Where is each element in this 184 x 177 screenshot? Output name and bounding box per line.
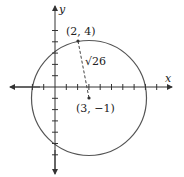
x-axis-label: x: [165, 72, 172, 85]
coordinate-diagram: y x (2, 4) √26 (3, −1): [0, 0, 184, 177]
point-2-4: [76, 39, 79, 42]
point-label: (2, 4): [66, 25, 96, 38]
y-axis-label: y: [58, 3, 66, 16]
center-point: [87, 96, 90, 99]
radius-line: [78, 41, 89, 98]
radius-label: √26: [85, 55, 106, 68]
center-label: (3, −1): [76, 102, 115, 115]
